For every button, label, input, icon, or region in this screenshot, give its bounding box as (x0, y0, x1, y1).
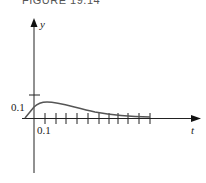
y-tick-label: 0.1 (11, 101, 25, 113)
y-axis-arrow-icon (31, 18, 38, 27)
x-axis-arrow-icon (191, 115, 201, 122)
y-axis-label: y (39, 18, 45, 30)
x-tick-label: 0.1 (37, 124, 51, 136)
x-axis-label: t (191, 124, 195, 136)
chart-plot-area: y t 0.1 0.1 (0, 0, 206, 183)
